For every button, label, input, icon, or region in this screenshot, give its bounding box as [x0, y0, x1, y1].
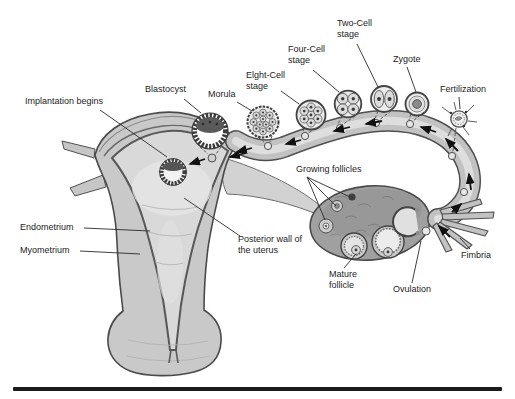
mature-follicle [341, 233, 367, 259]
label-ovulation: Ovulation [393, 284, 431, 295]
label-fimbria: Fimbria [461, 250, 491, 261]
label-eight-cell: Elght-Cell stage [246, 70, 298, 91]
released-ovum [422, 227, 430, 235]
label-posterior-wall: Posterior wall of the uterus [238, 234, 306, 255]
label-zygote: Zygote [393, 54, 421, 65]
two-cell-stage [371, 86, 397, 112]
label-two-cell: Two-Cell stage [337, 18, 389, 39]
implanting-blastocyst [160, 159, 187, 186]
label-fertilization: Fertilization [440, 84, 486, 95]
label-endometrium: Endometrium [20, 222, 74, 233]
left-tube-stub [62, 141, 95, 158]
ovary [307, 181, 437, 265]
growing-follicle-small [332, 201, 343, 212]
zygote [406, 93, 429, 116]
label-morula: Morula [208, 89, 236, 100]
label-growing-follicles: Growing follicles [296, 164, 362, 175]
label-mature-follicle: Mature follicle [329, 269, 373, 290]
figure-canvas: Implantation begins Blastocyst Morula El… [0, 0, 515, 399]
uterus [62, 112, 238, 375]
blastocyst [192, 113, 228, 149]
morula [248, 107, 279, 138]
label-myometrium: Myometrium [20, 245, 70, 256]
growing-follicle-medium [319, 219, 333, 233]
four-cell-stage [335, 91, 362, 118]
left-ligament-stub [70, 175, 106, 196]
eight-cell-stage [297, 101, 326, 130]
label-blastocyst: Blastocyst [145, 84, 186, 95]
fimbria-fingers [433, 199, 494, 252]
label-four-cell: Four-Cell stage [288, 44, 340, 65]
bottom-rule [13, 387, 502, 391]
anatomy-illustration [0, 0, 515, 399]
label-implantation: Implantation begins [25, 96, 103, 107]
